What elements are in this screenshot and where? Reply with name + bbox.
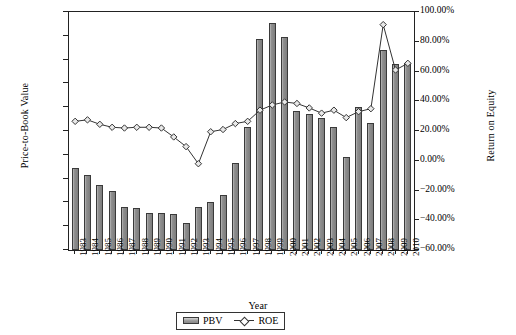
roe-marker: [392, 67, 398, 73]
x-tick-mark: [123, 250, 124, 254]
diamond-line-icon: [234, 317, 254, 325]
y-tick-label-right: 0.00%: [420, 155, 445, 164]
roe-marker: [355, 108, 361, 114]
roe-marker: [220, 126, 226, 132]
roe-line-path: [75, 25, 408, 164]
x-tick-mark: [86, 250, 87, 254]
x-tick-mark: [210, 250, 211, 254]
roe-marker: [281, 99, 287, 105]
roe-marker: [84, 117, 90, 123]
y-tick-label-right: −20.00%: [420, 185, 455, 194]
y-tick-label-right: 60.00%: [420, 66, 449, 75]
roe-marker: [294, 100, 300, 106]
y-tick-label-right: 40.00%: [420, 95, 449, 104]
roe-marker: [269, 102, 275, 108]
roe-marker: [405, 60, 411, 66]
legend-item-roe: ROE: [234, 315, 278, 326]
x-tick-mark: [173, 250, 174, 254]
roe-marker: [134, 124, 140, 130]
x-tick-mark: [185, 250, 186, 254]
x-tick-mark: [160, 250, 161, 254]
y-tick-label-right: −40.00%: [420, 214, 455, 223]
x-tick-mark: [333, 250, 334, 254]
x-tick-mark: [296, 250, 297, 254]
roe-marker: [368, 105, 374, 111]
x-tick-mark: [271, 250, 272, 254]
x-tick-mark: [395, 250, 396, 254]
plot-area: [68, 11, 415, 251]
y-tick-label-right: −60.00%: [420, 244, 455, 253]
y-tick-label-right: 20.00%: [420, 125, 449, 134]
roe-marker: [121, 125, 127, 131]
x-tick-mark: [370, 250, 371, 254]
roe-marker: [109, 124, 115, 130]
y-axis-label-left: Price-to-Book Value: [19, 56, 30, 196]
legend-item-pbv: PBV: [183, 315, 222, 326]
y-tick-label-right: 80.00%: [420, 36, 449, 45]
roe-marker: [380, 21, 386, 27]
y-tick-label-right: 100.00%: [420, 6, 454, 15]
roe-marker: [207, 129, 213, 135]
x-tick-mark: [345, 250, 346, 254]
roe-marker: [232, 120, 238, 126]
roe-marker: [331, 107, 337, 113]
roe-marker: [343, 114, 349, 120]
roe-marker: [306, 105, 312, 111]
roe-marker-group: [72, 21, 411, 166]
x-tick-mark: [136, 250, 137, 254]
chart-legend: PBV ROE: [176, 312, 285, 330]
legend-label-pbv: PBV: [203, 315, 222, 326]
x-tick-mark: [247, 250, 248, 254]
x-tick-mark: [111, 250, 112, 254]
x-tick-mark: [99, 250, 100, 254]
x-tick-mark: [259, 250, 260, 254]
x-tick-label: 2010: [411, 238, 421, 256]
x-tick-mark: [148, 250, 149, 254]
x-tick-mark: [74, 250, 75, 254]
roe-marker: [72, 118, 78, 124]
x-tick-mark: [358, 250, 359, 254]
legend-label-roe: ROE: [258, 315, 278, 326]
x-tick-mark: [308, 250, 309, 254]
line-series-roe: [69, 12, 414, 250]
x-tick-mark: [382, 250, 383, 254]
x-tick-mark: [321, 250, 322, 254]
roe-marker: [97, 121, 103, 127]
x-tick-mark: [407, 250, 408, 254]
roe-marker: [195, 161, 201, 167]
x-tick-mark: [197, 250, 198, 254]
roe-marker: [146, 124, 152, 130]
x-tick-mark: [234, 250, 235, 254]
x-tick-mark: [222, 250, 223, 254]
chart-container: Price-to-Book Value Return on Equity Yea…: [0, 0, 516, 335]
x-axis-label: Year: [0, 300, 516, 311]
y-axis-label-right: Return on Equity: [485, 56, 496, 196]
x-tick-mark: [284, 250, 285, 254]
roe-marker: [318, 110, 324, 116]
bar-swatch-icon: [183, 317, 199, 324]
